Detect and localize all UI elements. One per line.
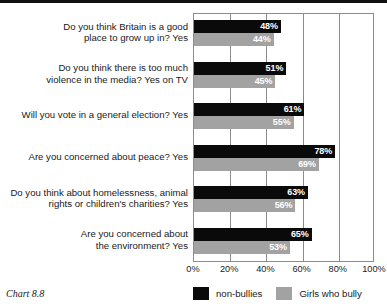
bar-girls-who-bully: 53%: [194, 241, 290, 254]
bar-non-bullies: 63%: [194, 186, 308, 199]
bar-value-label: 61%: [284, 105, 305, 114]
x-tick-label: 0%: [186, 264, 199, 274]
x-tick-label: 100%: [362, 264, 386, 274]
bar-value-label: 78%: [314, 147, 335, 156]
plot-area: 48%44%51%45%61%55%78%69%63%56%65%53%: [193, 13, 374, 262]
category-label-line: Do you think about homelessness, animal: [0, 187, 188, 199]
bar-rect: 61%: [194, 103, 304, 116]
bar-rect: 51%: [194, 62, 286, 75]
bar-value-label: 48%: [260, 22, 281, 31]
category-label: Are you concerned aboutthe environment? …: [0, 228, 188, 251]
x-axis-tick-labels: 0%20%40%60%80%100%: [193, 264, 374, 278]
chart-legend: non-bulliesGirls who bully: [193, 285, 376, 301]
bar-non-bullies: 61%: [194, 103, 304, 116]
category-label-line: Are you concerned about: [0, 228, 188, 240]
legend-swatch: [276, 287, 292, 300]
category-label-line: Are you concerned about peace? Yes: [0, 151, 188, 163]
bar-value-label: 45%: [255, 77, 276, 86]
bar-value-label: 56%: [275, 201, 296, 210]
bar-value-label: 63%: [287, 188, 308, 197]
bar-value-label: 65%: [291, 230, 312, 239]
category-label-line: rights or children's charities? Yes: [0, 198, 188, 210]
bar-non-bullies: 65%: [194, 228, 312, 241]
bar-value-label: 51%: [266, 64, 287, 73]
category-label: Do you think Britain is a goodplace to g…: [0, 21, 188, 44]
bar-rect: 55%: [194, 116, 294, 129]
chart-figure: 48%44%51%45%61%55%78%69%63%56%65%53% Do …: [0, 0, 387, 308]
category-label-line: Do you think Britain is a good: [0, 21, 188, 33]
bar-group: 51%45%: [194, 56, 373, 98]
bar-girls-who-bully: 69%: [194, 158, 319, 171]
x-tick-label: 20%: [220, 264, 238, 274]
category-label-line: Do you think there is too much: [0, 62, 188, 74]
category-label: Do you think there is too muchviolence i…: [0, 62, 188, 85]
bar-rect: 53%: [194, 241, 290, 254]
bar-non-bullies: 48%: [194, 20, 281, 33]
category-label-line: place to grow up in? Yes: [0, 32, 188, 44]
bar-value-label: 69%: [298, 160, 319, 169]
bar-rect: 44%: [194, 33, 274, 46]
bar-value-label: 44%: [253, 35, 274, 44]
bar-rect: 63%: [194, 186, 308, 199]
x-tick-label: 60%: [292, 264, 310, 274]
bar-rect: 56%: [194, 199, 295, 212]
bar-value-label: 55%: [273, 118, 294, 127]
legend-label: Girls who bully: [299, 288, 361, 299]
bar-rect: 69%: [194, 158, 319, 171]
chart-caption: Chart 8.8: [6, 288, 44, 299]
bar-girls-who-bully: 45%: [194, 75, 275, 88]
bar-rect: 65%: [194, 228, 312, 241]
bar-group: 61%55%: [194, 97, 373, 139]
bar-girls-who-bully: 55%: [194, 116, 294, 129]
legend-item-non-bullies: non-bullies: [193, 287, 262, 300]
legend-label: non-bullies: [216, 288, 262, 299]
bar-value-label: 53%: [269, 243, 290, 252]
bar-non-bullies: 78%: [194, 145, 335, 158]
bar-rect: 48%: [194, 20, 281, 33]
bar-rect: 78%: [194, 145, 335, 158]
category-label: Will you vote in a general election? Yes: [0, 109, 188, 121]
category-label: Are you concerned about peace? Yes: [0, 151, 188, 163]
bar-group: 65%53%: [194, 222, 373, 264]
legend-swatch: [193, 287, 209, 300]
legend-item-girls-who-bully: Girls who bully: [276, 287, 361, 300]
x-tick-label: 80%: [329, 264, 347, 274]
x-tick-label: 40%: [256, 264, 274, 274]
bar-group: 63%56%: [194, 180, 373, 222]
bar-group: 78%69%: [194, 139, 373, 181]
bar-girls-who-bully: 44%: [194, 33, 274, 46]
category-label: Do you think about homelessness, animalr…: [0, 187, 188, 210]
category-label-line: violence in the media? Yes on TV: [0, 74, 188, 86]
bar-non-bullies: 51%: [194, 62, 286, 75]
category-label-line: the environment? Yes: [0, 240, 188, 252]
category-label-line: Will you vote in a general election? Yes: [0, 109, 188, 121]
bar-group: 48%44%: [194, 14, 373, 56]
bar-girls-who-bully: 56%: [194, 199, 295, 212]
bar-rect: 45%: [194, 75, 275, 88]
